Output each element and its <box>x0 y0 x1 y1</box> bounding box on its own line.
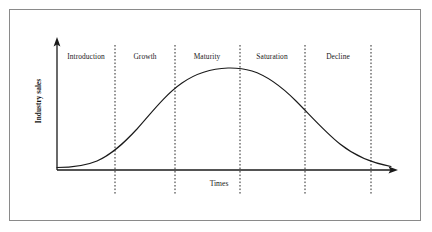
x-axis-label: Times <box>210 179 229 188</box>
figure-root: Introduction Growth Maturity Saturation … <box>0 0 432 232</box>
phase-label-maturity: Maturity <box>194 52 221 61</box>
plot-area <box>0 0 432 232</box>
y-axis-label: Industry sales <box>35 79 43 123</box>
industry-sales-curve <box>57 68 391 168</box>
phase-label-introduction: Introduction <box>67 52 105 61</box>
y-axis <box>54 37 61 170</box>
phase-dividers <box>115 45 371 195</box>
phase-label-decline: Decline <box>326 52 350 61</box>
x-axis <box>57 167 398 174</box>
phase-label-saturation: Saturation <box>256 52 287 61</box>
phase-label-growth: Growth <box>133 52 156 61</box>
